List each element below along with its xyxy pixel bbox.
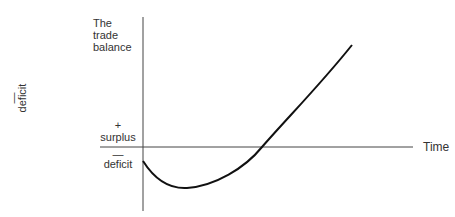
y-title-line-3: balance	[93, 41, 132, 53]
deficit-label: — deficit	[98, 150, 138, 170]
plus-sign: +	[96, 119, 140, 131]
side-deficit-label: — deficit	[10, 78, 28, 118]
trade-balance-curve	[143, 45, 352, 188]
x-axis-label: Time	[423, 141, 449, 153]
side-deficit-text: deficit	[17, 78, 28, 118]
surplus-label: + surplus	[96, 119, 140, 143]
deficit-text: deficit	[98, 158, 138, 170]
minus-sign: —	[98, 150, 138, 158]
chart-canvas	[0, 0, 455, 217]
y-axis-title: The trade balance	[93, 17, 132, 53]
y-title-line-2: trade	[93, 29, 132, 41]
surplus-text: surplus	[96, 131, 140, 143]
y-title-line-1: The	[93, 17, 132, 29]
